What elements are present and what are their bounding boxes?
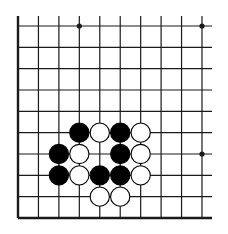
- black-stone: [70, 123, 89, 142]
- white-stone: [70, 144, 89, 163]
- star-point: [199, 23, 204, 28]
- black-stone: [111, 166, 130, 185]
- black-stone: [111, 144, 130, 163]
- white-stone: [131, 144, 150, 163]
- star-point: [199, 151, 204, 156]
- white-stone: [131, 123, 150, 142]
- white-stone: [70, 166, 89, 185]
- white-stone: [111, 187, 130, 206]
- board-grid: [18, 16, 212, 218]
- white-stone: [90, 123, 109, 142]
- black-stone: [49, 144, 68, 163]
- star-point: [77, 23, 82, 28]
- white-stone: [131, 166, 150, 185]
- go-board: [0, 0, 228, 234]
- black-stone: [111, 123, 130, 142]
- black-stone: [49, 166, 68, 185]
- white-stone: [90, 187, 109, 206]
- black-stone: [90, 166, 109, 185]
